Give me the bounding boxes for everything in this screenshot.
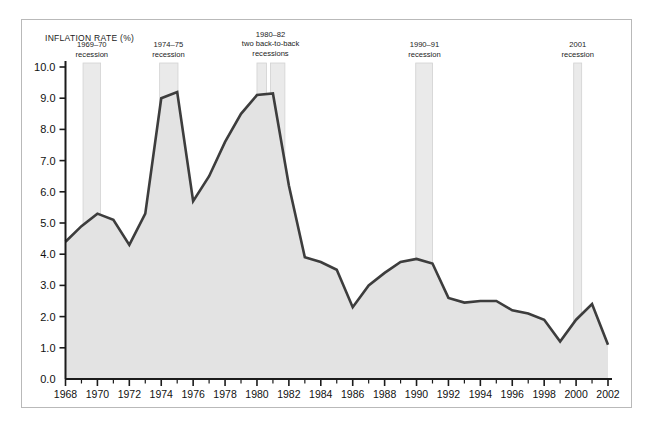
y-tick-label: 8.0 <box>22 123 56 135</box>
inflation-area-fill <box>66 92 609 379</box>
figure-root: INFLATION RATE (%) 0.01.02.03.04.05.06.0… <box>0 0 654 424</box>
recession-1969-70-label: 1969–70recession <box>76 40 109 59</box>
x-tick-label: 1970 <box>86 388 109 400</box>
recession-label-line: two back-to-back <box>242 39 299 49</box>
recession-label-line: recession <box>408 50 441 60</box>
recession-label-line: 1974–75 <box>152 40 185 50</box>
x-tick-label: 1996 <box>501 388 524 400</box>
y-tick-label: 3.0 <box>22 279 56 291</box>
y-tick-label: 7.0 <box>22 155 56 167</box>
x-tick-label: 1994 <box>469 388 492 400</box>
recession-label-line: recessions <box>242 49 299 59</box>
recession-1974-75-label: 1974–75recession <box>152 40 185 59</box>
x-tick-label: 1998 <box>532 388 555 400</box>
recession-2001-label: 2001recession <box>561 40 594 59</box>
x-tick-label: 1974 <box>150 388 173 400</box>
recession-label-line: recession <box>561 50 594 60</box>
recession-label-line: 1980–82 <box>242 30 299 40</box>
x-tick-label: 1972 <box>118 388 141 400</box>
x-tick-label: 2002 <box>596 388 619 400</box>
x-tick-label: 1990 <box>405 388 428 400</box>
recession-label-line: recession <box>76 50 109 60</box>
x-tick-label: 1984 <box>309 388 332 400</box>
x-tick-label: 1982 <box>277 388 300 400</box>
x-tick-label: 1978 <box>213 388 236 400</box>
y-tick-label: 0.0 <box>22 373 56 385</box>
x-tick-label: 1986 <box>341 388 364 400</box>
x-tick-label: 1980 <box>245 388 268 400</box>
recession-label-line: recession <box>152 50 185 60</box>
inflation-rate-area-chart <box>0 0 654 424</box>
y-tick-label: 4.0 <box>22 248 56 260</box>
y-tick-label: 10.0 <box>22 61 56 73</box>
recession-label-line: 2001 <box>561 40 594 50</box>
y-tick-label: 5.0 <box>22 217 56 229</box>
series-group <box>66 92 609 379</box>
x-tick-label: 1976 <box>181 388 204 400</box>
recession-label-line: 1969–70 <box>76 40 109 50</box>
x-tick-label: 1968 <box>54 388 77 400</box>
x-tick-label: 2000 <box>564 388 587 400</box>
y-tick-label: 6.0 <box>22 186 56 198</box>
y-tick-label: 2.0 <box>22 311 56 323</box>
x-tick-label: 1988 <box>373 388 396 400</box>
recession-1990-91-label: 1990–91recession <box>408 40 441 59</box>
recession-label-line: 1990–91 <box>408 40 441 50</box>
x-tick-label: 1992 <box>437 388 460 400</box>
recession-1980-82-label: 1980–82two back-to-backrecessions <box>242 30 299 59</box>
y-tick-label: 1.0 <box>22 342 56 354</box>
y-tick-label: 9.0 <box>22 92 56 104</box>
